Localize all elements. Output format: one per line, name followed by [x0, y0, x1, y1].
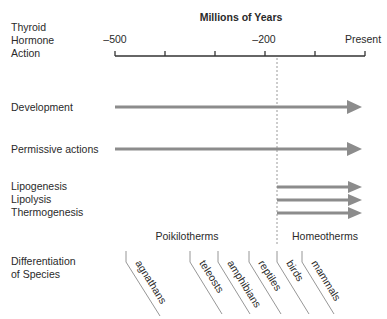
arrow-lipogenesis: [277, 181, 362, 193]
species-label-teleosts: teleosts: [197, 258, 226, 295]
axis-title: Millions of Years: [200, 11, 283, 23]
action-label-thermogenesis: Thermogenesis: [11, 206, 83, 218]
row-header-line3: Action: [11, 47, 40, 59]
tick-label-minus-200: –200: [252, 33, 276, 45]
species-branch-teleosts: teleosts: [190, 251, 227, 314]
arrow-thermogenesis: [277, 207, 362, 219]
species-label-reptiles: reptiles: [256, 258, 284, 293]
action-label-permissive: Permissive actions: [11, 143, 99, 155]
action-label-development: Development: [11, 101, 73, 113]
species-header-line2: of Species: [11, 268, 60, 280]
tick-label-present: Present: [345, 33, 381, 45]
arrow-permissive-actions: [115, 142, 362, 156]
group-label-homeotherms: Homeotherms: [292, 230, 358, 242]
tick-label-minus-500: –500: [103, 33, 127, 45]
species-branch-agnathans: agnathans: [126, 251, 169, 316]
arrow-development: [115, 100, 362, 114]
arrow-lipolysis: [277, 194, 362, 206]
row-header-line1: Thyroid: [11, 21, 46, 33]
species-branch-amphibians: amphibians: [218, 251, 264, 314]
time-axis: [115, 51, 365, 56]
thyroid-evolution-diagram: Thyroid Hormone Action Millions of Years…: [0, 0, 387, 319]
row-header-line2: Hormone: [11, 34, 54, 46]
action-label-lipolysis: Lipolysis: [11, 193, 51, 205]
species-branch-mammals: mammals: [302, 251, 344, 314]
group-label-poikilotherms: Poikilotherms: [155, 230, 218, 242]
action-label-lipogenesis: Lipogenesis: [11, 180, 67, 192]
species-label-mammals: mammals: [309, 258, 343, 303]
species-header-line1: Differentiation: [11, 255, 76, 267]
